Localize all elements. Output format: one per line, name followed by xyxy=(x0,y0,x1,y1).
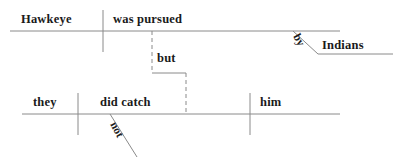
object-label-indians: Indians xyxy=(322,39,364,52)
predicate-label-was-pursued: was pursued xyxy=(113,13,182,26)
subject-label-they: they xyxy=(33,96,57,109)
subject-label-hawkeye: Hawkeye xyxy=(21,13,72,26)
conjunction-label-but: but xyxy=(157,52,176,65)
sentence-diagram: Hawkeye was pursued by Indians but they … xyxy=(0,0,393,161)
predicate-label-did-catch: did catch xyxy=(100,96,151,109)
direct-object-label-him: him xyxy=(260,96,281,109)
